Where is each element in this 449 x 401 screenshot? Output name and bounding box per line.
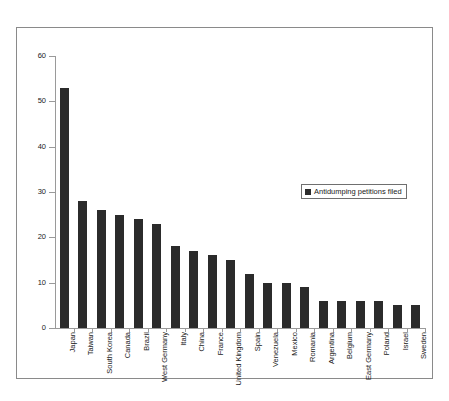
- y-axis-line: [55, 56, 56, 328]
- y-axis-tick-label: 10: [38, 277, 46, 288]
- chart-legend: Antidumping petitions filed: [301, 184, 407, 199]
- legend-swatch-icon: [305, 189, 311, 195]
- x-axis-tick-label: China: [197, 332, 206, 352]
- x-axis-tick-label: Brazil: [142, 332, 151, 351]
- y-axis-tick-label: 40: [38, 141, 46, 152]
- x-axis-tick-label: France: [216, 332, 225, 355]
- x-axis-tick-label: Belgium: [345, 332, 354, 359]
- x-axis-tick-label: Romania: [308, 332, 317, 362]
- chart-figure: 0102030405060 JapanTaiwanSouth KoreaCana…: [16, 27, 433, 379]
- bar: [319, 301, 328, 328]
- bar: [263, 283, 272, 328]
- bar: [245, 274, 254, 328]
- bar: [78, 201, 87, 328]
- y-axis-tick-label: 20: [38, 231, 46, 242]
- bar: [337, 301, 346, 328]
- x-axis-tick-label: Israel: [401, 332, 410, 350]
- x-axis-tick-label: Canada: [123, 332, 132, 358]
- x-axis-tick-label: Japan: [68, 332, 77, 352]
- x-axis-tick-label: Argentina: [327, 332, 336, 364]
- y-axis-tick: 10: [49, 283, 55, 284]
- bar: [356, 301, 365, 328]
- y-axis-tick-label: 60: [38, 50, 46, 61]
- x-axis-tick-label: East Germany: [364, 332, 373, 380]
- bar: [60, 88, 69, 328]
- bar: [374, 301, 383, 328]
- legend-label: Antidumping petitions filed: [314, 187, 402, 196]
- bar: [134, 219, 143, 328]
- y-axis-tick-label: 50: [38, 95, 46, 106]
- y-axis-tick: 0: [49, 328, 55, 329]
- x-axis-tick-label: Sweden: [419, 332, 428, 359]
- bar: [300, 287, 309, 328]
- y-axis-tick: 20: [49, 237, 55, 238]
- x-axis-tick-label: Mexico: [290, 332, 299, 356]
- bar: [189, 251, 198, 328]
- x-axis-tick-label: Poland: [382, 332, 391, 355]
- x-axis-tick-label: Italy: [179, 332, 188, 346]
- y-axis-tick: 50: [49, 101, 55, 102]
- bar: [282, 283, 291, 328]
- bar: [226, 260, 235, 328]
- bar: [152, 224, 161, 328]
- x-axis-tick-label: Spain: [253, 332, 262, 351]
- bar: [411, 305, 420, 328]
- bar: [97, 210, 106, 328]
- bar: [393, 305, 402, 328]
- y-axis-tick: 60: [49, 56, 55, 57]
- bar: [171, 246, 180, 328]
- y-axis-tick: 40: [49, 147, 55, 148]
- x-axis-tick-label: United Kingdom: [234, 332, 243, 385]
- x-axis-tick-label: Venezuela: [271, 332, 280, 367]
- x-axis-tick-label: South Korea: [105, 332, 114, 374]
- y-axis-tick-label: 30: [38, 186, 46, 197]
- x-axis-tick-label: West Germany: [160, 332, 169, 382]
- x-axis-tick-label: Taiwan: [86, 332, 95, 355]
- bar: [115, 215, 124, 328]
- y-axis-tick-label: 0: [42, 322, 46, 333]
- bar: [208, 255, 217, 328]
- y-axis-tick: 30: [49, 192, 55, 193]
